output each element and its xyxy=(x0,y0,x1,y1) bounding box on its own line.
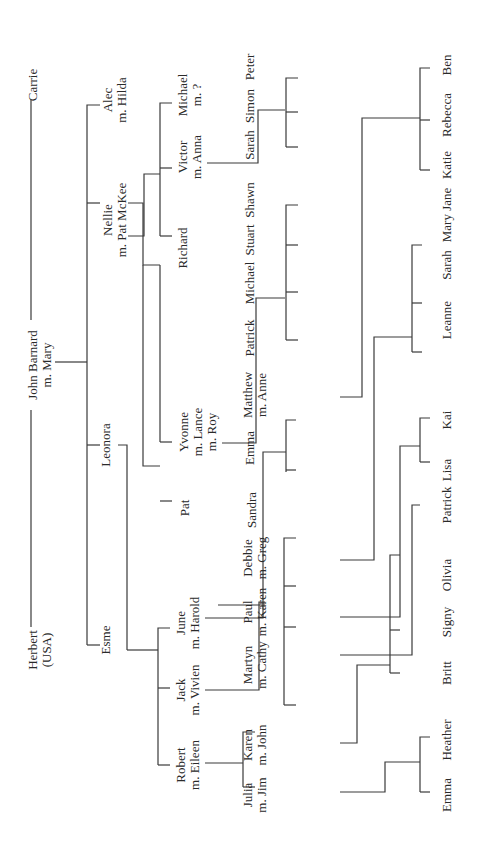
person-leonora: Leonora xyxy=(98,423,113,467)
connector-karen-to-children xyxy=(340,665,390,743)
person-emma2: Emma xyxy=(439,778,454,812)
connector-jack-bracket xyxy=(284,538,296,705)
spouse-line: m. Anne xyxy=(254,373,269,417)
person-name: Martyn xyxy=(240,645,255,684)
person-name: Pat xyxy=(177,499,192,516)
person-june: Junem. Harold xyxy=(173,596,202,649)
person-carrie: Carrie xyxy=(25,69,40,102)
person-name: Olivia xyxy=(439,559,454,592)
person-name: Jack xyxy=(173,678,188,702)
person-name: Mary Jane xyxy=(439,188,454,243)
person-name: Leanne xyxy=(439,301,454,339)
person-name: Emma xyxy=(242,431,257,465)
spouse-line: m. Lance xyxy=(190,408,205,457)
connector-alec-bracket xyxy=(160,103,172,236)
person-name: Sarah xyxy=(242,130,257,160)
person-michael2: Michael xyxy=(242,261,257,304)
spouse-line: m. Jim xyxy=(254,777,269,812)
person-name: Lisa xyxy=(439,459,454,482)
connector-matthew-to-children xyxy=(340,118,420,397)
spouse-line: m. ? xyxy=(189,84,204,107)
person-nellie: Nelliem. Pat McKee xyxy=(100,182,129,257)
person-name: Sarah xyxy=(439,250,454,280)
person-richard: Richard xyxy=(175,227,190,269)
person-rebecca: Rebecca xyxy=(439,93,454,137)
person-name: Herbert xyxy=(25,630,40,670)
person-sarah2: Sarah xyxy=(439,250,454,280)
person-ben: Ben xyxy=(439,54,454,75)
connector-debbie-to-children xyxy=(340,337,412,560)
connector-paul-bracket xyxy=(420,418,430,462)
person-name: Peter xyxy=(242,53,257,80)
person-maryjane: Mary Jane xyxy=(439,188,454,243)
connector-gen2-bracket xyxy=(87,105,100,645)
person-signy: Signy xyxy=(439,606,454,637)
person-lisa: Lisa xyxy=(439,459,454,482)
connector-june-bracket xyxy=(286,420,296,472)
person-yvonne: Yvonnem. Lancem. Roy xyxy=(176,408,219,457)
person-herbert: Herbert(USA) xyxy=(25,630,54,670)
person-name: Emma xyxy=(439,778,454,812)
person-heather: Heather xyxy=(439,719,454,761)
person-name: Leonora xyxy=(98,423,113,467)
person-name: Richard xyxy=(175,227,190,269)
person-name: Patrick xyxy=(439,486,454,523)
person-name: Patrick xyxy=(242,319,257,356)
person-name: Michael xyxy=(175,73,190,116)
spouse-line: m. John xyxy=(254,724,269,766)
connector-alec-to-children xyxy=(128,174,160,236)
person-name: Kai xyxy=(439,410,454,429)
person-esme: Esme xyxy=(98,625,113,654)
person-shawn: Shawn xyxy=(242,182,257,218)
person-simon: Simon xyxy=(242,89,257,123)
person-paul: Paulm. Karen xyxy=(240,587,269,636)
spouse-line: m. Roy xyxy=(204,412,219,451)
person-debbie: Debbiem. Greg xyxy=(240,536,269,579)
person-name: Matthew xyxy=(240,371,255,418)
person-name: Sandra xyxy=(244,492,259,528)
family-tree-diagram: Herbert(USA)John Barnardm. MaryCarrieEsm… xyxy=(0,0,477,845)
person-name: John Barnard xyxy=(25,330,40,400)
person-name: Yvonne xyxy=(176,412,191,452)
connector-paul-to-children xyxy=(340,446,420,617)
person-katie: Katie xyxy=(439,151,454,179)
connector-debbie-bracket xyxy=(412,245,422,352)
spouse-line: m. Harold xyxy=(187,596,202,649)
person-name: Esme xyxy=(98,625,113,654)
spouse-line: m. Eileen xyxy=(187,740,202,790)
person-name: Katie xyxy=(439,151,454,179)
person-matthew: Matthewm. Anne xyxy=(240,371,269,418)
person-name: Debbie xyxy=(240,539,255,577)
person-name: June xyxy=(173,611,188,635)
person-karen: Karenm. John xyxy=(240,724,269,766)
person-martyn: Martynm. Cathy xyxy=(240,641,269,689)
person-name: Ben xyxy=(439,54,454,75)
person-name: Michael xyxy=(242,261,257,304)
person-emma1: Emma xyxy=(242,431,257,465)
spouse-line: m. Anna xyxy=(189,135,204,179)
person-name: Carrie xyxy=(25,69,40,102)
person-sarah1: Sarah xyxy=(242,130,257,160)
person-name: Heather xyxy=(439,719,454,761)
person-name: Karen xyxy=(240,729,255,761)
spouse-line: (USA) xyxy=(39,633,54,668)
person-britt: Britt xyxy=(439,661,454,685)
person-leanne: Leanne xyxy=(439,301,454,339)
person-alec: Alecm. Hilda xyxy=(100,77,129,123)
person-michael: Michaelm. ? xyxy=(175,73,204,116)
person-name: Rebecca xyxy=(439,93,454,137)
person-stuart: Stuart xyxy=(242,224,257,255)
person-name: Stuart xyxy=(242,224,257,255)
connector-nellie-join xyxy=(143,265,160,466)
person-peter: Peter xyxy=(242,53,257,80)
spouse-line: m. Karen xyxy=(254,587,269,636)
spouse-line: m. Pat McKee xyxy=(114,182,129,257)
connector-julia-to-children xyxy=(340,762,420,792)
person-victor: Victorm. Anna xyxy=(175,135,204,179)
person-john: John Barnardm. Mary xyxy=(25,330,54,400)
person-name: Alec xyxy=(100,88,115,113)
person-name: Signy xyxy=(439,606,454,637)
person-name: Britt xyxy=(439,661,454,685)
spouse-line: m. Mary xyxy=(39,342,54,387)
connector-martyn-to-children xyxy=(340,505,420,655)
